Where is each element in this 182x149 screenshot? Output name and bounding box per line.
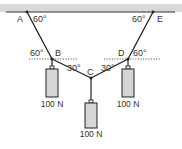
label-point-D: D	[118, 48, 125, 58]
weight-left	[46, 66, 58, 97]
point-B-dot	[51, 58, 54, 61]
label-point-E: E	[157, 14, 163, 24]
point-A-dot	[26, 11, 29, 14]
point-E-dot	[152, 11, 155, 14]
weight-right-box	[122, 69, 134, 97]
angle-label-D-left: 30°	[101, 63, 115, 73]
angle-label-B-right: 30°	[67, 63, 81, 73]
weight-label-center: 100 N	[80, 129, 103, 139]
weight-right	[122, 66, 134, 97]
angle-label-B-left: 60°	[30, 48, 44, 58]
weight-center-box	[85, 103, 97, 128]
label-point-A: A	[17, 14, 23, 24]
weight-center	[85, 100, 97, 128]
label-point-B: B	[55, 48, 61, 58]
weight-label-left: 100 N	[41, 99, 64, 109]
angle-label-D-right: 60°	[133, 48, 147, 58]
label-point-C: C	[87, 67, 94, 77]
angle-label-A: 60°	[33, 14, 47, 24]
weight-left-box	[46, 69, 58, 97]
angle-label-E: 60°	[132, 14, 146, 24]
weight-label-right: 100 N	[117, 99, 140, 109]
string-tension-diagram: A E B D C 60° 60° 60° 30° 30° 60° 100 N …	[0, 0, 182, 149]
point-D-dot	[127, 58, 130, 61]
